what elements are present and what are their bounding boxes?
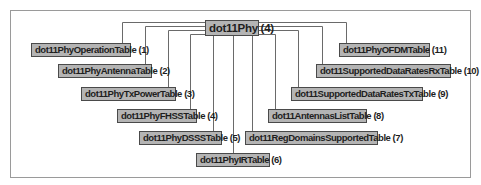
node-dot11phyofdmtable: dot11PhyOFDMTable (11) [339,43,430,57]
node-dot11regdomainssupportedtable: dot11RegDomainsSupportedTable (7) [245,131,378,145]
node-dot11phyantennatable: dot11PhyAntennaTable (2) [58,64,152,78]
node-dot11antennaslisttable: dot11AntennasListTable (8) [268,109,367,123]
node-dot11phydssstable: dot11PhyDSSSTable (5) [139,131,222,145]
root-node-dot11phy: dot11Phy (4) [205,20,259,36]
node-dot11phyirtable: dot11PhyIRTable (6) [196,153,270,167]
node-dot11phytxpowertable: dot11PhyTxPowerTable (3) [81,87,176,101]
node-dot11supporteddataratesrxtable: dot11SupportedDataRatesRxTable (10) [316,64,451,78]
node-dot11phyfhsstable: dot11PhyFHSSTable (4) [117,109,197,123]
node-dot11supporteddataratestxtable: dot11SupportedDataRatesTxTable (9) [291,87,423,101]
node-dot11phyoperationtable: dot11PhyOperationTable (1) [31,43,131,57]
